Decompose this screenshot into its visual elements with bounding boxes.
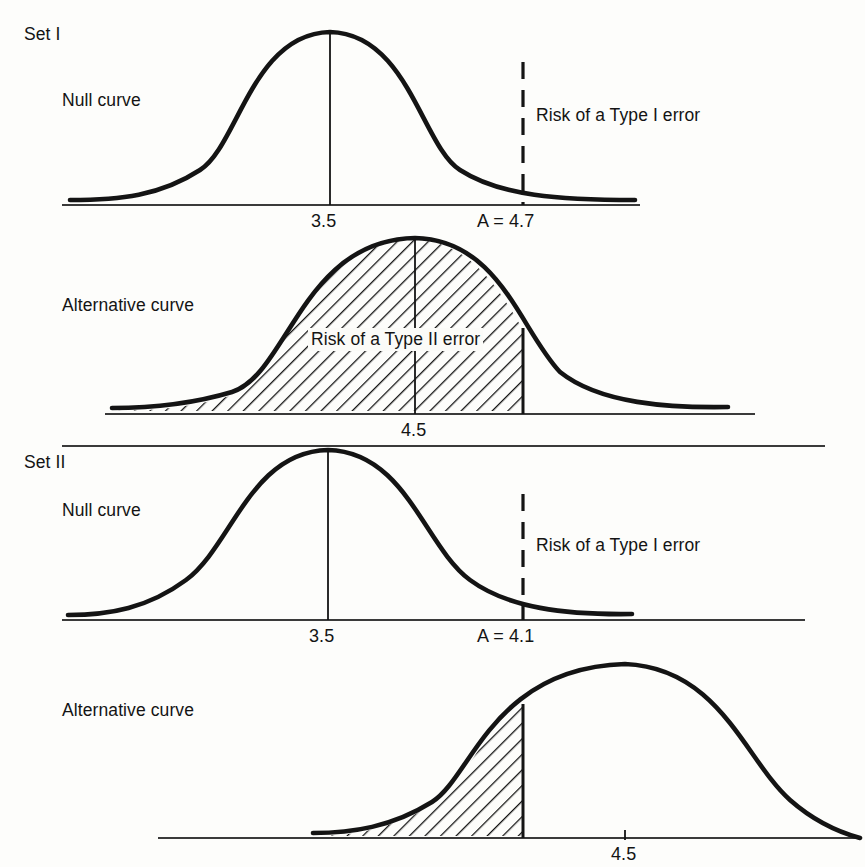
type-2-error-annotation-panel-2: Risk of a Type II error: [308, 328, 483, 351]
alternative-curve-panel-4: [313, 664, 860, 838]
axis-label-critical-panel-1: A = 4.7: [477, 211, 534, 232]
axis-label-mean-panel-1: 3.5: [311, 211, 336, 232]
type-1-error-annotation-panel-1: Risk of a Type I error: [536, 105, 700, 126]
curve-label-panel-2: Alternative curve: [62, 295, 194, 316]
null-curve-panel-3: [68, 450, 632, 615]
statistical-curves-figure: [0, 0, 865, 867]
curve-label-panel-3: Null curve: [62, 500, 141, 521]
axis-label-mean-panel-2: 4.5: [401, 420, 426, 441]
panel-set-2-alternative: [158, 664, 860, 840]
set-label-1: Set I: [24, 24, 61, 45]
axis-label-mean-panel-3: 3.5: [309, 626, 334, 647]
type-2-error-shaded-region: [112, 240, 523, 411]
curve-label-panel-1: Null curve: [62, 90, 141, 111]
type-1-error-annotation-panel-3: Risk of a Type I error: [536, 535, 700, 556]
curve-label-panel-4: Alternative curve: [62, 700, 194, 721]
axis-label-critical-panel-3: A = 4.1: [477, 626, 534, 647]
set-label-2: Set II: [24, 452, 65, 473]
axis-label-mean-panel-4: 4.5: [611, 844, 636, 865]
figure-canvas: Set I Null curve Risk of a Type I error …: [0, 0, 865, 867]
